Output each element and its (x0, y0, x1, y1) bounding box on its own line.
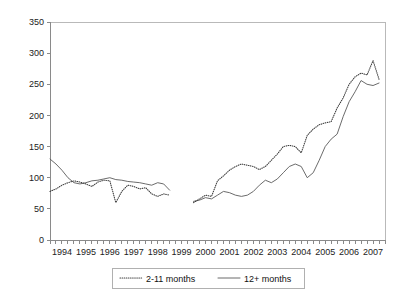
y-tick-label: 200 (29, 111, 44, 121)
series-line-12-plus-months (50, 81, 379, 202)
legend-label-2-11-months: 2-11 months (146, 274, 196, 284)
x-tick-label: 1996 (100, 247, 120, 257)
x-tick-label: 1999 (172, 247, 192, 257)
x-tick-label: 2001 (219, 247, 239, 257)
series-line-2-11-months (50, 61, 379, 203)
x-tick-label: 2007 (363, 247, 383, 257)
x-tick-label: 2003 (267, 247, 287, 257)
y-tick-label: 50 (34, 204, 44, 214)
x-tick-label: 2004 (291, 247, 311, 257)
x-tick-label: 1997 (124, 247, 144, 257)
line-chart: 050100150200250300350 199419951996199719… (0, 0, 400, 296)
y-tick-label: 250 (29, 79, 44, 89)
x-tick-label: 1994 (52, 247, 72, 257)
x-tick-label: 1998 (148, 247, 168, 257)
chart-canvas: 050100150200250300350 199419951996199719… (0, 0, 400, 296)
y-tick-label: 150 (29, 142, 44, 152)
y-tick-label: 0 (39, 235, 44, 245)
x-tick-label: 2000 (196, 247, 216, 257)
x-tick-label: 1995 (76, 247, 96, 257)
x-tick-label: 2006 (339, 247, 359, 257)
x-tick-label: 2002 (243, 247, 263, 257)
axis-tick-marks (47, 22, 385, 244)
y-tick-label: 350 (29, 17, 44, 27)
y-axis-tick-labels: 050100150200250300350 (29, 17, 44, 245)
legend-label-12-plus-months: 12+ months (244, 274, 292, 284)
x-axis-tick-labels: 1994199519961997199819992000200120022003… (52, 247, 383, 257)
y-tick-label: 300 (29, 48, 44, 58)
x-tick-label: 2005 (315, 247, 335, 257)
y-tick-label: 100 (29, 173, 44, 183)
